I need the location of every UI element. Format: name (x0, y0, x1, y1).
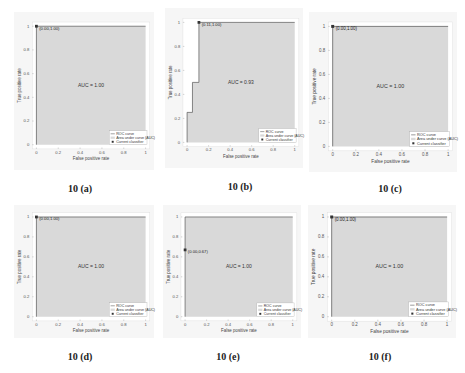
x-tick-label: 0 (186, 147, 189, 152)
legend-entry: Current classifier (417, 142, 446, 146)
legend-area-icon (260, 134, 264, 136)
y-tick-label: 0.2 (318, 294, 325, 299)
x-tick-label: 0.4 (77, 150, 83, 155)
x-tick-label: 0.4 (225, 322, 231, 327)
y-tick-label: 0.6 (172, 254, 178, 259)
current-classifier-marker (330, 215, 333, 218)
legend-entry: Current classifier (266, 138, 294, 142)
x-tick-label: 0.6 (99, 322, 105, 327)
x-tick-label: 0.2 (352, 322, 359, 327)
x-axis-label: False positive rate (73, 156, 110, 161)
x-axis-label: False positive rate (221, 328, 257, 333)
current-classifier-marker (198, 21, 201, 24)
y-tick-label: 0.8 (318, 234, 325, 239)
y-tick-label: 1 (322, 214, 325, 219)
x-axis-label: False positive rate (371, 159, 410, 164)
y-axis-label: True positive rate (17, 249, 22, 284)
x-tick-label: 0.4 (77, 322, 83, 327)
x-tick-label: 0.8 (268, 322, 274, 327)
y-axis-label: True positive rate (166, 249, 171, 283)
x-tick-label: 0.2 (353, 152, 360, 157)
x-tick-label: 0.6 (249, 147, 255, 152)
legend-area-icon (111, 137, 115, 139)
x-tick-label: 0.6 (399, 152, 406, 157)
x-tick-label: 1 (294, 147, 297, 152)
auc-label: AUC = 1.00 (78, 82, 104, 88)
legend-entry: Current classifier (116, 312, 144, 316)
x-tick-label: 0 (35, 150, 38, 155)
y-tick-label: 0 (178, 140, 181, 145)
y-tick-label: 0.8 (172, 234, 178, 239)
legend-area-icon (410, 308, 414, 310)
figure-caption-b: 10 (b) (190, 181, 290, 192)
x-tick-label: 0.2 (55, 322, 61, 327)
figure-caption-c: 10 (c) (340, 183, 440, 194)
x-tick-label: 0.4 (227, 147, 233, 152)
x-tick-label: 0.4 (375, 322, 382, 327)
x-tick-label: 0.6 (247, 322, 253, 327)
y-tick-label: 0.2 (24, 294, 30, 299)
legend-marker-icon (412, 142, 414, 144)
y-tick-label: 1 (176, 214, 179, 219)
legend-marker-icon (261, 139, 263, 141)
y-tick-label: 0 (322, 314, 325, 319)
legend-marker-icon (112, 141, 114, 143)
y-tick-label: 0.6 (24, 71, 30, 76)
point-label: (0.00,0.67) (188, 249, 209, 254)
y-tick-label: 0.2 (319, 120, 326, 125)
y-tick-label: 0.4 (319, 96, 326, 101)
y-axis-label: True positive rate (312, 68, 317, 105)
roc-chart-a: 00.20.40.60.8100.20.40.60.81False positi… (14, 12, 154, 170)
point-label: (0.00,1.00) (336, 26, 358, 31)
y-tick-label: 0.6 (319, 72, 326, 77)
point-label: (0.11,1.00) (202, 22, 222, 27)
legend-marker-icon (259, 313, 261, 315)
x-tick-label: 1 (144, 150, 147, 155)
x-axis-label: False positive rate (370, 329, 409, 334)
y-tick-label: 1 (27, 24, 30, 29)
roc-chart-c: 00.20.40.60.8100.20.40.60.81False positi… (309, 12, 457, 172)
legend-entry: Current classifier (264, 312, 292, 316)
x-tick-label: 1 (144, 322, 147, 327)
x-tick-label: 0.8 (421, 322, 428, 327)
legend-marker-icon (112, 313, 114, 315)
y-tick-label: 0.4 (174, 92, 180, 97)
x-tick-label: 0.2 (206, 147, 212, 152)
y-tick-label: 0.6 (318, 254, 325, 259)
y-tick-label: 0.8 (24, 47, 30, 52)
x-tick-label: 0.8 (121, 150, 127, 155)
y-tick-label: 0.2 (172, 294, 178, 299)
y-tick-label: 1 (323, 24, 326, 29)
legend-entry: Current classifier (116, 140, 144, 144)
y-axis-label: True positive rate (168, 65, 173, 99)
y-tick-label: 0 (27, 142, 30, 147)
auc-label: AUC = 1.00 (377, 83, 405, 89)
x-tick-label: 0.6 (398, 322, 405, 327)
y-tick-label: 0 (176, 314, 179, 319)
y-tick-label: 1 (27, 214, 30, 219)
point-label: (0.00,1.00) (39, 216, 60, 221)
roc-chart-b: 00.20.40.60.8100.20.40.60.81False positi… (165, 8, 303, 168)
x-tick-label: 0.6 (99, 150, 105, 155)
x-tick-label: 1 (292, 322, 295, 327)
y-tick-label: 0.6 (24, 254, 30, 259)
auc-label: AUC = 1.00 (78, 263, 104, 269)
y-tick-label: 0.4 (24, 274, 30, 279)
legend-area-icon (411, 138, 415, 140)
figure-caption-f: 10 (f) (330, 351, 430, 362)
figure-caption-d: 10 (d) (30, 351, 130, 362)
point-label: (0.00,1.00) (39, 26, 60, 31)
y-tick-label: 0.4 (24, 95, 30, 100)
legend-entry: Current classifier (416, 312, 445, 316)
y-tick-label: 0.2 (24, 118, 30, 123)
y-tick-label: 0.4 (172, 274, 178, 279)
x-axis-label: False positive rate (73, 328, 110, 333)
x-tick-label: 0 (330, 322, 333, 327)
x-tick-label: 1 (447, 152, 450, 157)
x-tick-label: 1 (446, 322, 449, 327)
y-tick-label: 0.8 (319, 48, 326, 53)
x-tick-label: 0 (184, 322, 187, 327)
y-tick-label: 0.4 (318, 274, 325, 279)
x-tick-label: 0 (35, 322, 38, 327)
x-tick-label: 0.8 (270, 147, 276, 152)
